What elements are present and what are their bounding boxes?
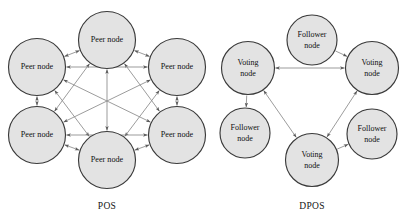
node-label: Follower [358,124,387,133]
node-label: node [364,135,380,144]
edge-connector [65,145,79,150]
node-label: Peer node [91,155,124,164]
node-label: Peer node [91,35,124,44]
graph-node[interactable]: Followernode [287,15,337,65]
captions-layer: POSDPOS [98,201,325,211]
node-label: Follower [231,123,260,132]
node-label: Voting [237,58,258,67]
node-label: node [304,41,320,50]
node-label: Peer node [21,130,54,139]
edge-connector [337,144,348,149]
node-label: node [304,161,320,170]
node-label: node [240,69,256,78]
diagram-caption: POS [98,201,116,211]
node-label: node [237,134,253,143]
node-label: Peer node [21,62,54,71]
node-label: Voting [301,150,322,159]
edge-connector [135,145,149,150]
node-label: node [364,69,380,78]
node-label: Peer node [161,62,194,71]
graph-node[interactable]: Peer node [9,107,66,164]
graph-node[interactable]: Votingnode [346,42,399,95]
graph-node[interactable]: Peer node [149,39,206,96]
edge-connector [135,51,150,57]
graph-node[interactable]: Peer node [79,132,136,189]
edge-connector [65,51,80,57]
graph-node[interactable]: Votingnode [286,134,339,187]
figure-root: Peer nodePeer nodePeer nodePeer nodePeer… [0,0,416,223]
consensus-comparison-figure: Peer nodePeer nodePeer nodePeer nodePeer… [0,0,416,223]
nodes-layer: Peer nodePeer nodePeer nodePeer nodePeer… [9,12,399,189]
edge-connector [336,51,348,56]
graph-node[interactable]: Peer node [9,39,66,96]
graph-node[interactable]: Peer node [149,107,206,164]
graph-node[interactable]: Votingnode [222,42,275,95]
graph-node[interactable]: Followernode [220,108,270,158]
node-label: Follower [298,30,327,39]
edge-connector [246,95,247,107]
node-label: Peer node [161,130,194,139]
graph-node[interactable]: Followernode [347,109,397,159]
diagram-caption: DPOS [299,201,325,211]
node-label: Voting [361,58,382,67]
graph-node[interactable]: Peer node [79,12,136,69]
